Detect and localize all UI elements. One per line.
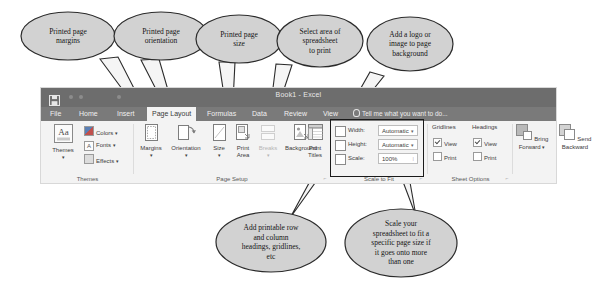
- margins-button[interactable]: Margins ▾: [135, 124, 167, 159]
- print-titles-button[interactable]: Print Titles: [301, 124, 329, 159]
- callout-size-text: Printed page size: [195, 14, 283, 64]
- window-title: Book1 - Excel: [41, 91, 556, 98]
- checkbox-icon-headings-print[interactable]: [473, 152, 482, 161]
- send-backward-button[interactable]: Send Backward: [554, 124, 596, 151]
- scale-label: Scale:: [348, 153, 365, 164]
- group-label-sheet-options: Sheet Options: [430, 176, 511, 182]
- headings-print-checkbox[interactable]: Print: [473, 152, 496, 162]
- height-value-dropdown[interactable]: Automatic ▾: [378, 139, 418, 150]
- gridlines-print-label: Print: [444, 155, 456, 161]
- headings-print-label: Print: [484, 155, 496, 161]
- page-setup-dialog-launcher[interactable]: ⌐: [322, 175, 328, 181]
- size-button[interactable]: Size ▾: [207, 124, 231, 159]
- themes-button-label: Themes: [52, 147, 74, 153]
- group-sheet-options: Gridlines Headings View Print View Print…: [430, 121, 511, 183]
- sheet-options-dialog-launcher[interactable]: ⌐: [504, 175, 510, 181]
- margins-caret-icon[interactable]: ▾: [135, 152, 167, 159]
- size-caret-icon[interactable]: ▾: [207, 152, 231, 159]
- tab-page-layout[interactable]: Page Layout: [147, 107, 196, 121]
- print-area-button[interactable]: Print Area: [230, 124, 256, 159]
- theme-colors-label: Colors: [96, 130, 113, 136]
- scale-spinner-icon[interactable]: ⁞: [413, 154, 414, 165]
- checkbox-icon-gridlines-view[interactable]: [433, 138, 442, 147]
- group-arrange: Bring Forward ▾: [514, 121, 556, 183]
- callout-scale: Scale your spreadsheet to fit a specific…: [344, 208, 458, 278]
- height-icon: [335, 140, 346, 151]
- scale-to-fit-dialog-launcher[interactable]: ⌐: [418, 175, 424, 181]
- width-caret-icon[interactable]: ▾: [411, 126, 414, 137]
- group-themes: Aa Themes ▾ Colors ▾ AFonts ▾ Effect: [43, 121, 132, 183]
- print-area-label-2: Area: [230, 152, 256, 159]
- group-arrange-send: Send Backward: [556, 121, 596, 183]
- tell-me-label: Tell me what you want to do...: [362, 110, 448, 117]
- group-separator-3: [427, 124, 428, 174]
- headings-view-checkbox[interactable]: View: [473, 138, 497, 148]
- print-titles-icon: [301, 124, 329, 143]
- excel-window: Book1 - Excel File Home Insert Page Layo…: [41, 88, 556, 183]
- callout-size: Printed page size: [195, 14, 283, 64]
- height-label: Height:: [348, 139, 367, 150]
- scale-height-row[interactable]: Height: Automatic ▾: [334, 139, 424, 150]
- theme-fonts-button[interactable]: AFonts ▾: [84, 140, 116, 151]
- bring-forward-button[interactable]: Bring Forward ▾: [511, 124, 553, 151]
- size-label: Size: [213, 145, 225, 151]
- group-label-scale-to-fit: Scale to Fit: [333, 176, 425, 182]
- tab-formulas[interactable]: Formulas: [202, 107, 241, 121]
- print-titles-label-2: Titles: [301, 152, 329, 159]
- tab-insert[interactable]: Insert: [112, 107, 140, 121]
- effects-icon: [84, 154, 94, 164]
- group-page-setup: Margins ▾ Orientation ▾: [135, 121, 329, 183]
- theme-fonts-caret-icon[interactable]: ▾: [113, 142, 116, 148]
- gridlines-print-checkbox[interactable]: Print: [433, 152, 456, 162]
- checkbox-icon-gridlines-print[interactable]: [433, 152, 442, 161]
- scale-width-row[interactable]: Width: Automatic ▾: [334, 125, 424, 136]
- group-separator-1: [133, 124, 134, 174]
- scale-value-input[interactable]: 100% ⁞: [378, 153, 418, 164]
- gridlines-header: Gridlines: [432, 124, 456, 130]
- theme-effects-caret-icon[interactable]: ▾: [116, 158, 119, 164]
- ribbon-tab-bar: File Home Insert Page Layout Formulas Da…: [41, 107, 556, 121]
- bring-forward-caret-icon[interactable]: ▾: [542, 144, 545, 150]
- group-separator-2: [330, 124, 331, 174]
- orientation-caret-icon[interactable]: ▾: [166, 152, 206, 159]
- checkbox-icon-headings-view[interactable]: [473, 138, 482, 147]
- callout-print-titles: Add printable row and column headings, g…: [215, 211, 327, 273]
- breaks-button[interactable]: Breaks ▾: [255, 124, 281, 159]
- send-backward-label-2: Backward: [554, 144, 596, 152]
- tab-home[interactable]: Home: [74, 107, 103, 121]
- orientation-label: Orientation: [171, 145, 200, 151]
- theme-colors-caret-icon[interactable]: ▾: [115, 130, 118, 136]
- callout-background-text: Add a logo or image to page background: [366, 16, 454, 72]
- tab-data[interactable]: Data: [247, 107, 272, 121]
- gridlines-view-checkbox[interactable]: View: [433, 138, 457, 148]
- tab-review[interactable]: Review: [279, 107, 312, 121]
- bring-forward-label-2: Forward ▾: [511, 144, 553, 152]
- callout-margins: Printed page margins: [20, 11, 116, 61]
- height-caret-icon[interactable]: ▾: [411, 140, 414, 151]
- themes-caret-icon[interactable]: ▾: [46, 154, 80, 161]
- themes-button[interactable]: Aa Themes ▾: [46, 124, 80, 161]
- theme-colors-button[interactable]: Colors ▾: [84, 126, 118, 137]
- tell-me-search[interactable]: Tell me what you want to do...: [353, 107, 448, 121]
- width-value: Automatic: [382, 128, 409, 134]
- callout-print-area: Select area of spreadsheet to print: [276, 14, 364, 68]
- scale-icon: [335, 154, 346, 165]
- orientation-button[interactable]: Orientation ▾: [166, 124, 206, 159]
- width-value-dropdown[interactable]: Automatic ▾: [378, 125, 418, 136]
- orientation-icon: [166, 124, 206, 143]
- breaks-caret-icon[interactable]: ▾: [255, 152, 281, 159]
- title-bar: Book1 - Excel: [41, 88, 556, 107]
- themes-icon: Aa: [46, 124, 80, 145]
- svg-text:Aa: Aa: [58, 127, 69, 137]
- colors-icon: [84, 126, 94, 136]
- width-icon: [335, 126, 346, 137]
- tab-file[interactable]: File: [45, 107, 66, 121]
- margins-label: Margins: [140, 145, 161, 151]
- callout-margins-text: Printed page margins: [20, 11, 116, 61]
- send-backward-icon: [559, 136, 578, 142]
- scale-percent-row[interactable]: Scale: 100% ⁞: [334, 153, 424, 164]
- theme-effects-button[interactable]: Effects ▾: [84, 154, 119, 165]
- fonts-icon: A: [84, 141, 94, 151]
- tab-view[interactable]: View: [318, 107, 343, 121]
